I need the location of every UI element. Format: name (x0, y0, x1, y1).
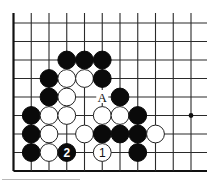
black-stone (111, 125, 129, 143)
black-stone (129, 107, 147, 125)
black-stone (93, 70, 111, 88)
white-stone (40, 125, 58, 143)
white-stone (58, 107, 76, 125)
white-stone (111, 107, 129, 125)
white-stone (58, 88, 76, 106)
stone-move-number: 1 (99, 146, 106, 160)
black-stone (93, 125, 111, 143)
black-stone (22, 107, 40, 125)
white-stone (76, 70, 94, 88)
black-stone (111, 88, 129, 106)
point-label-a: A (98, 90, 108, 105)
stones: 21 (22, 51, 164, 161)
black-stone (40, 70, 58, 88)
star-point-icon (189, 113, 194, 118)
white-stone (93, 107, 111, 125)
white-stone (76, 125, 94, 143)
star-points (189, 113, 194, 118)
black-stone (129, 125, 147, 143)
white-stone (58, 70, 76, 88)
white-stone (40, 107, 58, 125)
black-stone (22, 125, 40, 143)
white-stone (40, 144, 58, 162)
black-stone (40, 88, 58, 106)
black-stone (93, 51, 111, 69)
go-board-diagram: 21 A (0, 0, 219, 182)
board-marks: A (96, 90, 108, 105)
black-stone (76, 51, 94, 69)
black-stone (58, 51, 76, 69)
white-stone (147, 125, 165, 143)
black-stone (129, 144, 147, 162)
black-stone (22, 144, 40, 162)
stone-move-number: 2 (63, 146, 70, 160)
